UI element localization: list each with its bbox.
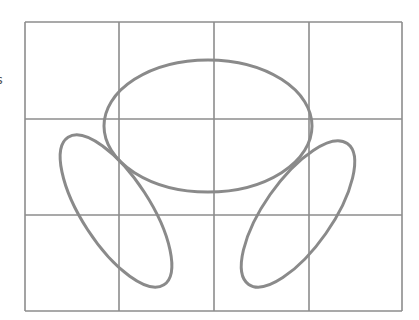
- ellipse-group: [40, 60, 376, 304]
- top-ellipse: [104, 60, 312, 192]
- right-ellipse: [221, 124, 375, 304]
- grid: [25, 22, 402, 311]
- diagram-canvas: [0, 0, 419, 320]
- left-ellipse: [40, 119, 193, 304]
